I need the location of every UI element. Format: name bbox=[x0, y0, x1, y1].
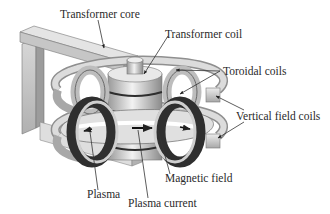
label-magnetic-field: Magnetic field bbox=[165, 172, 232, 184]
label-transformer-coil: Transformer coil bbox=[165, 28, 242, 40]
vertical-coil-pointer-upper bbox=[216, 96, 244, 110]
transformer-core-pointer bbox=[98, 20, 104, 48]
label-transformer-core: Transformer core bbox=[60, 8, 140, 20]
label-vertical-field-coils: Vertical field coils bbox=[236, 110, 320, 122]
label-toroidal-coils: Toroidal coils bbox=[223, 65, 286, 77]
label-plasma-current: Plasma current bbox=[128, 197, 197, 209]
label-plasma: Plasma bbox=[87, 188, 120, 200]
transformer-coil-pointer bbox=[144, 36, 168, 74]
